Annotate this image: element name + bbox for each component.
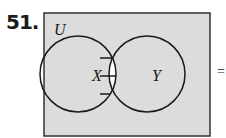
venn-diagram: U X Y — [0, 0, 226, 138]
equals-sign: = — [217, 64, 225, 80]
universe-label: U — [54, 21, 67, 38]
set-x-label: X — [91, 67, 103, 84]
